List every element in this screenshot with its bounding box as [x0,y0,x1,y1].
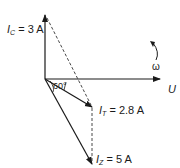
ic-label: IC = 3 A [7,24,44,36]
omega-label: ω [152,62,160,72]
it-label: IT = 2.8 A [99,105,144,117]
angle-label: 60° [53,82,67,91]
iz-label: IZ = 5 A [96,154,132,166]
phasor-diagram: IC = 3 A ω U 60° IT = 2.8 A IZ = 5 A [0,0,180,168]
iz-vector [45,79,92,164]
omega-rotation-arrow [153,43,157,60]
dashed-ic-to-it [47,18,91,105]
u-label: U [168,84,176,95]
